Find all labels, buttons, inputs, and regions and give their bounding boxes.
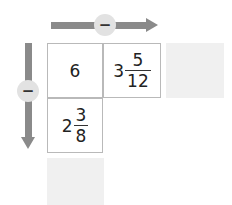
minus-icon: − — [22, 84, 35, 99]
value-six: 6 — [70, 61, 81, 81]
whole-part: 2 — [62, 116, 73, 136]
right-arrow-head-icon — [146, 18, 158, 32]
numerator: 3 — [74, 106, 89, 124]
denominator: 12 — [125, 72, 151, 90]
cell-top-right: 3 5 12 — [103, 43, 161, 98]
fraction: 5 12 — [125, 51, 151, 90]
down-arrow-head-icon — [21, 137, 35, 149]
denominator: 8 — [74, 127, 89, 145]
minus-operator-horizontal: − — [94, 14, 116, 36]
cell-top-left: 6 — [47, 43, 103, 98]
fraction: 3 8 — [74, 106, 89, 145]
minus-operator-vertical: − — [17, 80, 39, 102]
numerator: 5 — [131, 51, 146, 69]
mixed-number: 2 3 8 — [62, 106, 89, 145]
mixed-number: 3 5 12 — [113, 51, 150, 90]
cell-bottom-left: 2 3 8 — [47, 98, 103, 153]
minus-icon: − — [99, 18, 112, 33]
answer-box-bottom[interactable] — [47, 158, 104, 205]
answer-box-right[interactable] — [166, 43, 224, 98]
whole-part: 3 — [113, 61, 124, 81]
